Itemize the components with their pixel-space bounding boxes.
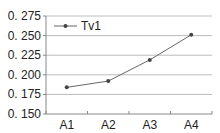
legend-marker xyxy=(64,24,68,28)
gridlines xyxy=(46,16,212,94)
y-tick-label: 0. 275 xyxy=(8,9,42,23)
data-point-a1 xyxy=(65,85,69,89)
axes xyxy=(46,16,212,114)
data-point-a4 xyxy=(189,33,193,37)
line-chart: 0. 1500. 1750. 2000. 2250. 2500. 275 A1A… xyxy=(0,0,220,133)
series-line-tv1 xyxy=(67,35,192,88)
y-tick-label: 0. 225 xyxy=(8,48,42,62)
data-point-a3 xyxy=(148,58,152,62)
y-tick-label: 0. 175 xyxy=(8,87,42,101)
legend-label: Tv1 xyxy=(81,19,101,33)
y-axis-ticks: 0. 1500. 1750. 2000. 2250. 2500. 275 xyxy=(8,9,46,121)
legend: Tv1 xyxy=(54,19,101,33)
y-tick-label: 0. 150 xyxy=(8,107,42,121)
x-tick-label: A2 xyxy=(101,118,116,132)
x-tick-label: A4 xyxy=(184,118,199,132)
x-tick-label: A1 xyxy=(59,118,74,132)
x-tick-label: A3 xyxy=(142,118,157,132)
series-group xyxy=(65,33,194,90)
y-tick-label: 0. 200 xyxy=(8,68,42,82)
y-tick-label: 0. 250 xyxy=(8,29,42,43)
data-point-a2 xyxy=(106,79,110,83)
